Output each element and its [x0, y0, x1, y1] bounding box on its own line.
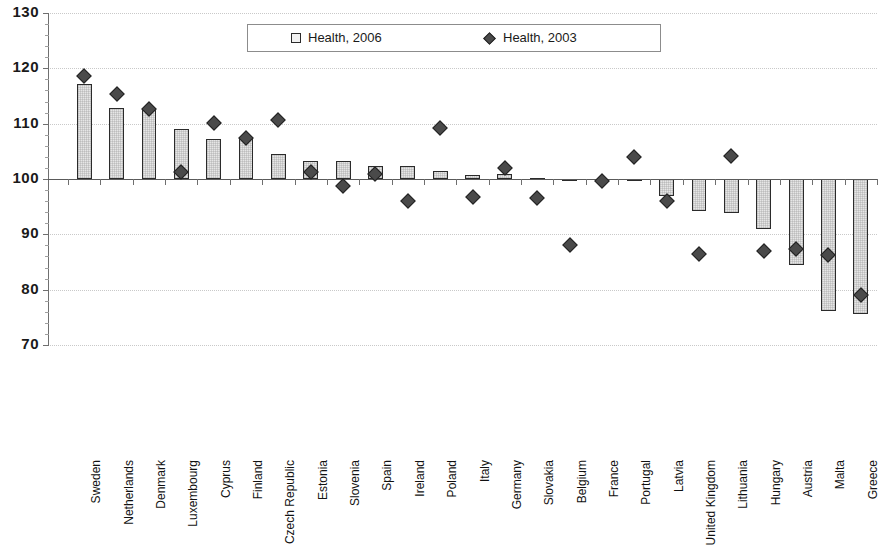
x-tick [489, 179, 490, 185]
x-label-latvia: Latvia [672, 460, 686, 492]
y-minor-tick [45, 135, 49, 136]
diamond-latvia [659, 193, 675, 209]
x-label-italy: Italy [478, 460, 492, 482]
x-tick [748, 179, 749, 185]
x-tick [812, 179, 813, 185]
y-minor-tick [45, 113, 49, 114]
x-label-germany: Germany [510, 460, 524, 509]
x-label-slovenia: Slovenia [348, 460, 362, 506]
diamond-italy [465, 189, 481, 205]
diamond-hungary [756, 243, 772, 259]
x-tick [424, 179, 425, 185]
y-minor-tick [45, 46, 49, 47]
x-tick [230, 179, 231, 185]
y-tick-70 [43, 345, 49, 346]
y-minor-tick [45, 90, 49, 91]
x-axis-category-labels: SwedenNetherlandsDenmarkLuxembourgCyprus… [48, 348, 877, 464]
x-label-luxembourg: Luxembourg [186, 460, 200, 527]
x-tick [683, 179, 684, 185]
bar-sweden [77, 84, 92, 179]
y-minor-tick [45, 57, 49, 58]
x-label-ireland: Ireland [413, 460, 427, 497]
y-minor-tick [45, 268, 49, 269]
diamond-cyprus [206, 115, 222, 131]
y-minor-tick [45, 168, 49, 169]
x-tick [845, 179, 846, 185]
y-minor-tick [45, 301, 49, 302]
legend-label-health-2006: Health, 2006 [308, 29, 382, 47]
baseline-line [48, 179, 877, 180]
x-label-austria: Austria [801, 460, 815, 497]
bar-poland [433, 171, 448, 179]
diamond-united-kingdom [691, 246, 707, 262]
x-label-finland: Finland [251, 460, 265, 499]
y-minor-tick [45, 256, 49, 257]
x-label-portugal: Portugal [639, 460, 653, 505]
legend-item-health-2006: Health, 2006 [291, 29, 382, 47]
x-tick [586, 179, 587, 185]
x-label-belgium: Belgium [575, 460, 589, 503]
y-minor-tick [45, 79, 49, 80]
x-label-poland: Poland [445, 460, 459, 497]
y-minor-tick [45, 312, 49, 313]
x-tick [165, 179, 166, 185]
y-tick-80 [43, 290, 49, 291]
diamond-belgium [562, 238, 578, 254]
diamond-slovenia [335, 178, 351, 194]
y-tick-110 [43, 124, 49, 125]
bar-cyprus [206, 139, 221, 179]
bar-czech-republic [271, 154, 286, 179]
y-minor-tick [45, 201, 49, 202]
y-tick-label-90: 90 [0, 224, 39, 241]
y-minor-tick [45, 212, 49, 213]
x-label-lithuania: Lithuania [736, 460, 750, 509]
diamond-sweden [76, 68, 92, 84]
x-tick [262, 179, 263, 185]
legend-label-health-2003: Health, 2003 [503, 29, 577, 47]
x-tick [68, 179, 69, 185]
legend-item-health-2003: Health, 2003 [483, 29, 577, 47]
y-tick-label-80: 80 [0, 280, 39, 297]
x-label-denmark: Denmark [154, 460, 168, 509]
y-tick-90 [43, 234, 49, 235]
legend-square-icon [291, 33, 301, 43]
x-label-cyprus: Cyprus [219, 460, 233, 498]
y-tick-120 [43, 68, 49, 69]
gridline-70 [48, 345, 877, 346]
bar-netherlands [109, 108, 124, 179]
x-tick [780, 179, 781, 185]
y-minor-tick [45, 245, 49, 246]
y-minor-tick [45, 334, 49, 335]
x-tick [327, 179, 328, 185]
y-minor-tick [45, 35, 49, 36]
diamond-czech-republic [271, 113, 287, 129]
x-label-czech-republic: Czech Republic [283, 460, 297, 544]
bar-lithuania [724, 179, 739, 213]
x-label-spain: Spain [380, 460, 394, 491]
bar-denmark [142, 110, 157, 179]
y-minor-tick [45, 157, 49, 158]
gridline-90 [48, 234, 877, 235]
diamond-portugal [627, 149, 643, 165]
x-tick [521, 179, 522, 185]
x-tick [295, 179, 296, 185]
x-tick [715, 179, 716, 185]
plot-area [48, 13, 877, 345]
bar-malta [821, 179, 836, 311]
legend-diamond-icon [483, 32, 496, 45]
diamond-ireland [400, 193, 416, 209]
diamond-lithuania [724, 148, 740, 164]
x-tick [197, 179, 198, 185]
y-minor-tick [45, 146, 49, 147]
y-minor-tick [45, 223, 49, 224]
y-minor-tick [45, 24, 49, 25]
x-tick [359, 179, 360, 185]
x-tick [618, 179, 619, 185]
x-tick [392, 179, 393, 185]
diamond-netherlands [109, 87, 125, 103]
y-minor-tick [45, 323, 49, 324]
x-label-malta: Malta [833, 460, 847, 489]
x-tick [100, 179, 101, 185]
y-minor-tick [45, 279, 49, 280]
